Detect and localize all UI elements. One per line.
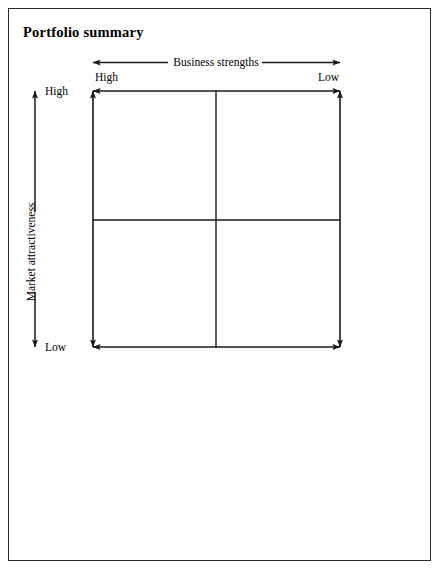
cell-bottom-left[interactable] [94,221,215,346]
page-canvas: Portfolio summary Business strengths Hig… [0,0,441,573]
cell-top-left[interactable] [94,92,215,219]
cell-top-right[interactable] [217,92,339,219]
x-axis-group: Business strengths High Low [93,56,340,84]
cell-bottom-right[interactable] [217,221,339,346]
y-axis-low-label: Low [45,341,67,353]
x-axis-low-label: Low [318,71,340,83]
x-axis-label: Business strengths [173,56,259,69]
y-axis-high-label: High [45,85,68,98]
y-axis-label: Market attractiveness [25,202,37,301]
portfolio-matrix-diagram: Business strengths High Low Market attra… [0,0,441,573]
x-axis-high-label: High [95,71,118,84]
y-axis-group: Market attractiveness High Low [25,85,68,353]
